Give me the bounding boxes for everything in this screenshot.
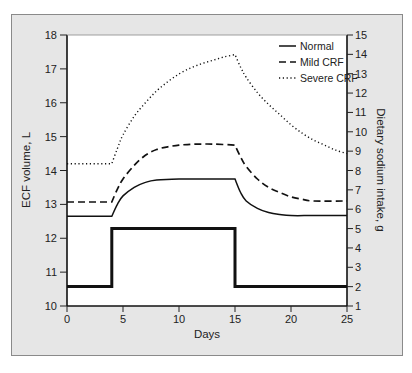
y-right-tick-label: 4 — [355, 242, 361, 254]
x-tick-label: 0 — [64, 313, 70, 325]
y-right-tick-label: 12 — [355, 87, 367, 99]
y-right-tick-label: 3 — [355, 261, 361, 273]
y-right-tick-label: 8 — [355, 165, 361, 177]
y-left-tick-label: 16 — [45, 97, 57, 109]
y-right-tick-label: 7 — [355, 184, 361, 196]
legend-label-mild-crf: Mild CRF — [300, 56, 344, 68]
y-right-tick-label: 1 — [355, 300, 361, 312]
y-right-tick-label: 6 — [355, 203, 361, 215]
y-right-tick-label: 11 — [355, 106, 366, 118]
y-axis-left-title: ECF volume, L — [20, 131, 32, 208]
y-right-tick-label: 2 — [355, 281, 361, 293]
x-tick-label: 15 — [229, 313, 241, 325]
legend-label-normal: Normal — [300, 40, 334, 52]
x-tick-label: 10 — [173, 313, 185, 325]
y-left-tick-label: 18 — [45, 29, 57, 41]
legend-label-severe-crf: Severe CRF — [300, 72, 358, 84]
x-axis-title: Days — [194, 328, 220, 340]
y-right-tick-label: 9 — [355, 145, 361, 157]
x-tick-label: 20 — [285, 313, 297, 325]
y-left-tick-label: 12 — [45, 232, 57, 244]
y-axis-right-title: Dietary sodium intake, g — [375, 108, 387, 231]
y-right-tick-label: 14 — [355, 48, 367, 60]
y-right-tick-label: 5 — [355, 223, 361, 235]
y-right-tick-label: 15 — [355, 29, 367, 41]
x-tick-label: 5 — [120, 313, 126, 325]
y-left-tick-label: 11 — [46, 266, 57, 278]
y-left-tick-label: 10 — [45, 300, 57, 312]
y-left-tick-label: 17 — [45, 63, 57, 75]
y-left-tick-label: 14 — [45, 165, 57, 177]
y-left-tick-label: 13 — [45, 198, 57, 210]
x-tick-label: 25 — [341, 313, 353, 325]
chart: 1011121314151617181234567891011121314150… — [0, 0, 412, 373]
y-left-tick-label: 15 — [45, 131, 57, 143]
y-right-tick-label: 10 — [355, 126, 367, 138]
